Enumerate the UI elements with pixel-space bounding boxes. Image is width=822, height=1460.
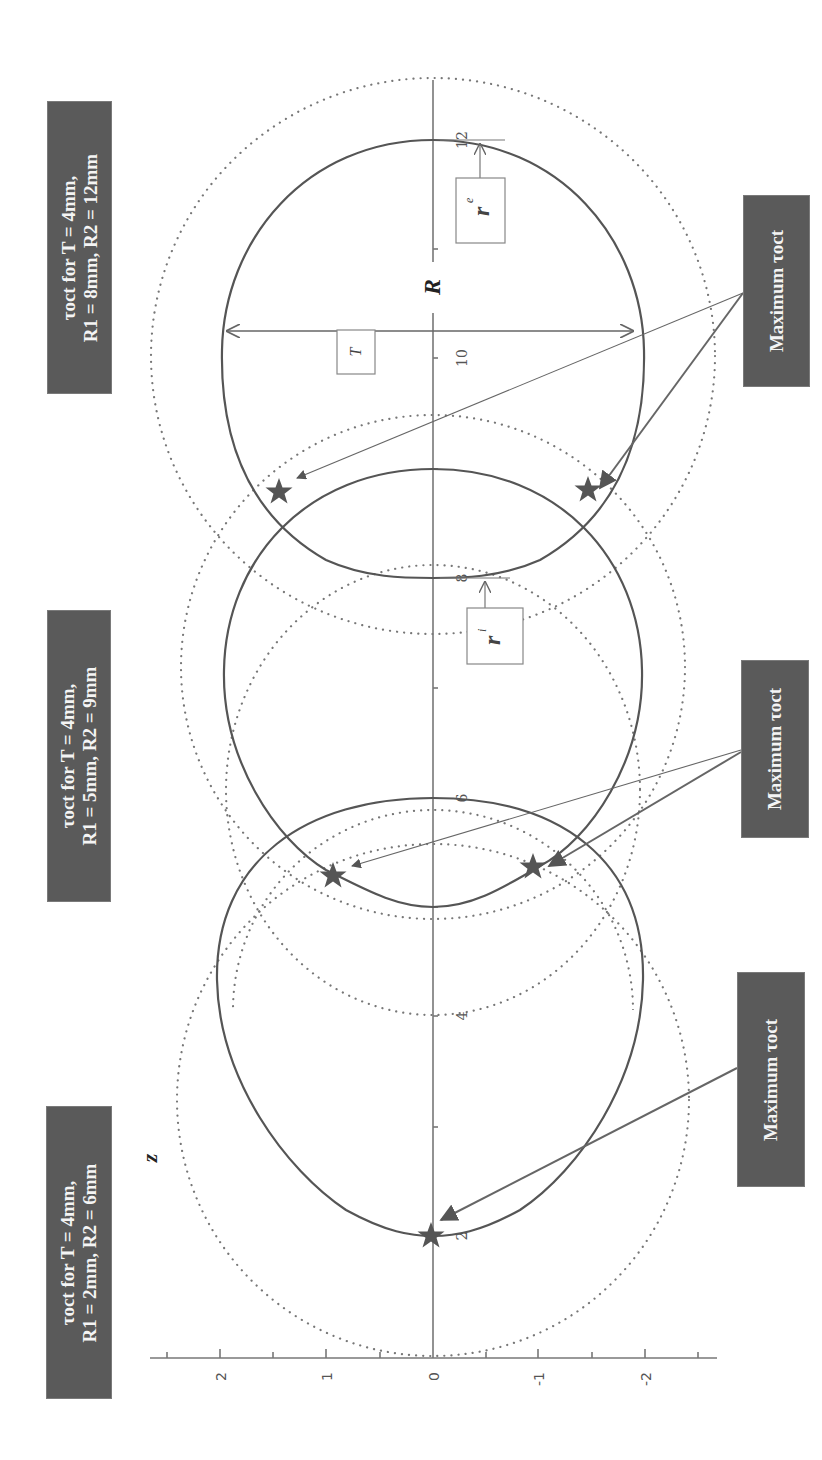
svg-text:1: 1 [319, 1372, 335, 1381]
label-box-R8-R12: τoct for T = 4mm, R1 = 8mm, R2 = 12mm [47, 101, 112, 394]
svg-text:-1: -1 [531, 1372, 547, 1386]
star-icon [320, 862, 347, 888]
star-icon [266, 478, 293, 504]
R-axis-label: R [419, 279, 445, 296]
svg-text:0: 0 [426, 1372, 442, 1381]
label-box-text: τoct for T = 4mm, R1 = 5mm, R2 = 9mm [57, 667, 101, 846]
z-tick-labels: 2 1 0 -1 -2 [213, 1372, 654, 1386]
label-box-text: τoct for T = 4mm, R1 = 2mm, R2 = 6mm [57, 1163, 101, 1342]
tau-oct-contours [217, 140, 644, 1236]
svg-text:2: 2 [213, 1372, 229, 1381]
svg-text:T: T [347, 346, 364, 356]
label-box-R2-R6: τoct for T = 4mm, R1 = 2mm, R2 = 6mm [46, 1106, 112, 1399]
svg-text:r: r [468, 206, 494, 216]
callout-max-tau-oct-middle: Maximum τoct [741, 660, 809, 838]
label-box-R5-R9: τoct for T = 4mm, R1 = 5mm, R2 = 9mm [47, 610, 111, 902]
callout-arrows [297, 293, 743, 1220]
stress-contour-diagram: 2 1 0 -1 -2 z 12 10 8 6 4 2 R T [0, 0, 822, 1460]
r-i-dimension: r i [440, 578, 523, 664]
r-e-dimension: r e [440, 140, 505, 243]
callout-max-tau-oct-bottom: Maximum τoct [737, 972, 805, 1187]
svg-text:r: r [479, 635, 505, 645]
callout-text: Maximum τoct [766, 230, 788, 352]
star-icon [575, 476, 602, 502]
callout-text: Maximum τoct [760, 1018, 782, 1140]
z-axis-label: z [137, 1153, 162, 1163]
svg-text:-2: -2 [638, 1372, 654, 1386]
callout-max-tau-oct-top: Maximum τoct [743, 195, 810, 387]
label-box-text: τoct for T = 4mm, R1 = 8mm, R2 = 12mm [58, 153, 102, 341]
callout-text: Maximum τoct [764, 688, 786, 810]
R-tick-labels: 12 10 8 6 4 2 [454, 131, 470, 1240]
svg-text:e: e [462, 197, 476, 203]
svg-text:i: i [475, 629, 489, 632]
contour-R2-R6 [217, 798, 643, 1236]
svg-text:4: 4 [454, 1011, 470, 1020]
T-dimension: T [226, 330, 634, 374]
R-axis [433, 80, 438, 1358]
svg-text:10: 10 [454, 349, 470, 367]
